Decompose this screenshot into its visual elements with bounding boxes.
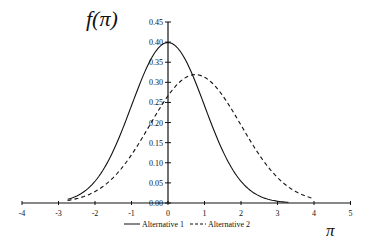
x-tick-label: 1 — [203, 209, 207, 218]
x-tick-label: 2 — [239, 209, 243, 218]
x-tick-label: 0 — [166, 209, 170, 218]
x-tick-label: -1 — [128, 209, 135, 218]
y-tick-label: 0.25 — [149, 98, 163, 107]
y-tick-label: 0.05 — [149, 179, 163, 188]
legend-label-2: Alternative 2 — [208, 220, 250, 229]
curves — [68, 43, 314, 203]
y-tick-label: 0.00 — [149, 199, 163, 208]
x-tick-label: -3 — [55, 209, 62, 218]
y-tick-label: 0.15 — [149, 139, 163, 148]
legend-label-1: Alternative 1 — [142, 220, 184, 229]
x-tick-label: 4 — [312, 209, 316, 218]
x-tick-label: -2 — [92, 209, 99, 218]
y-tick-label: 0.10 — [149, 159, 163, 168]
legend: Alternative 1 Alternative 2 — [124, 220, 250, 229]
y-tick-label: 0.30 — [149, 78, 163, 87]
curve-alternative-1 — [68, 43, 289, 203]
axes: -4-3-2-10123450.000.050.100.150.200.250.… — [19, 18, 353, 218]
y-tick-label: 0.45 — [149, 18, 163, 27]
x-axis-title: π — [326, 221, 335, 240]
x-tick-label: -4 — [19, 209, 26, 218]
curve-alternative-2 — [68, 75, 314, 201]
chart: -4-3-2-10123450.000.050.100.150.200.250.… — [0, 0, 370, 252]
x-tick-label: 5 — [349, 209, 353, 218]
y-tick-label: 0.20 — [149, 119, 163, 128]
y-axis-title: f(π) — [86, 6, 118, 31]
x-tick-label: 3 — [276, 209, 280, 218]
